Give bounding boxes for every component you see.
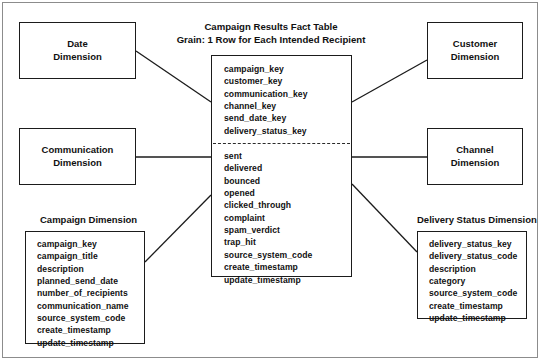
date-dimension-box[interactable]: Date Dimension [19, 22, 136, 79]
fact-field: spam_verdict [224, 224, 351, 236]
campaign-dimension-caption: Campaign Dimension [40, 214, 137, 225]
customer-dimension-label: Customer Dimension [451, 38, 500, 64]
campaign-dimension-field: campaign_key [37, 238, 144, 250]
fact-field: source_system_code [224, 249, 351, 261]
communication-dimension-label-line1: Communication [42, 144, 114, 157]
fact-field: delivery_status_key [224, 125, 351, 137]
link-customer-to-fact [352, 60, 427, 102]
communication-dimension-label-line2: Dimension [42, 157, 114, 170]
campaign-dimension-field: source_system_code [37, 312, 144, 324]
fact-field: update_timestamp [224, 274, 351, 286]
campaign-dimension-field: campaign_title [37, 250, 144, 262]
fact-field: create_timestamp [224, 261, 351, 273]
delivery-status-dimension-field: category [429, 275, 526, 287]
fact-field: opened [224, 187, 351, 199]
campaign-dimension-box[interactable]: campaign_key campaign_title description … [25, 231, 145, 344]
campaign-dimension-field: update_timestamp [37, 337, 144, 349]
fact-field: sent [224, 150, 351, 162]
fact-field: send_date_key [224, 112, 351, 124]
customer-dimension-label-line2: Dimension [451, 51, 500, 64]
fact-field: delivered [224, 162, 351, 174]
channel-dimension-box[interactable]: Channel Dimension [427, 128, 523, 185]
link-date-to-fact [136, 51, 211, 102]
fact-field: trap_hit [224, 236, 351, 248]
campaign-dimension-field: description [37, 263, 144, 275]
communication-dimension-label: Communication Dimension [42, 144, 114, 170]
customer-dimension-box[interactable]: Customer Dimension [427, 22, 523, 79]
date-dimension-label-line2: Dimension [53, 51, 102, 64]
campaign-dimension-field: communication_name [37, 300, 144, 312]
channel-dimension-label: Channel Dimension [451, 144, 500, 170]
fact-field: complaint [224, 212, 351, 224]
fact-field: customer_key [224, 75, 351, 87]
delivery-status-dimension-caption: Delivery Status Dimension [417, 214, 537, 225]
delivery-status-dimension-box[interactable]: delivery_status_key delivery_status_code… [417, 231, 527, 319]
diagram-canvas: Campaign Results Fact Table Grain: 1 Row… [0, 0, 542, 363]
fact-field: channel_key [224, 100, 351, 112]
fact-field: clicked_through [224, 199, 351, 211]
delivery-status-dimension-field: delivery_status_code [429, 250, 526, 262]
fact-table-measure-section: sent delivered bounced opened clicked_th… [212, 144, 351, 293]
delivery-status-dimension-field: source_system_code [429, 287, 526, 299]
date-dimension-label-line1: Date [53, 38, 102, 51]
campaign-dimension-field: create_timestamp [37, 324, 144, 336]
delivery-status-dimension-field: update_timestamp [429, 312, 526, 324]
communication-dimension-box[interactable]: Communication Dimension [19, 128, 136, 185]
campaign-dimension-field: number_of_recipients [37, 287, 144, 299]
fact-field: campaign_key [224, 63, 351, 75]
delivery-status-dimension-field: create_timestamp [429, 300, 526, 312]
fact-field: bounced [224, 175, 351, 187]
fact-table-key-section: campaign_key customer_key communication_… [212, 56, 351, 143]
link-campaign-to-fact [145, 195, 211, 262]
channel-dimension-label-line2: Dimension [451, 157, 500, 170]
campaign-results-fact-table[interactable]: campaign_key customer_key communication_… [211, 55, 352, 277]
delivery-status-dimension-field: description [429, 263, 526, 275]
campaign-dimension-field: planned_send_date [37, 275, 144, 287]
delivery-status-dimension-field: delivery_status_key [429, 238, 526, 250]
fact-field: communication_key [224, 88, 351, 100]
link-delivery-status-to-fact [352, 184, 417, 252]
date-dimension-label: Date Dimension [53, 38, 102, 64]
customer-dimension-label-line1: Customer [451, 38, 500, 51]
channel-dimension-label-line1: Channel [451, 144, 500, 157]
